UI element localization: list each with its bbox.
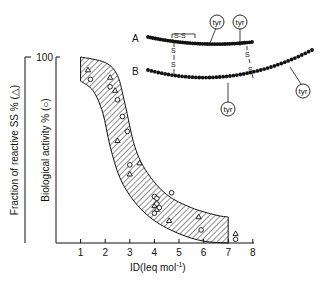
residue-bead (177, 74, 181, 78)
x-title-main: ID(Ieq mol (130, 262, 176, 273)
outer-y-axis (25, 57, 31, 243)
residue-bead (187, 75, 191, 79)
residue-bead (225, 74, 229, 78)
residue-bead (214, 75, 218, 79)
residue-bead (259, 68, 263, 72)
y-outer-title: Fraction of reactive SS % (△) (9, 85, 20, 215)
residue-bead (310, 48, 314, 52)
x-tick-label: 4 (152, 247, 158, 258)
circle-marker (152, 211, 157, 216)
residue-bead (286, 59, 290, 63)
residue-bead (191, 75, 195, 79)
circle-marker (199, 228, 204, 233)
chain-a (146, 35, 254, 46)
residue-bead (300, 53, 304, 57)
x-tick-label: 7 (225, 247, 231, 258)
x-tick-label: 5 (176, 247, 182, 258)
circle-marker (108, 84, 113, 89)
residue-bead (303, 51, 307, 55)
residue-bead (170, 73, 174, 77)
chain-b-label: B (132, 66, 139, 77)
residue-bead (232, 74, 236, 78)
residue-bead (194, 75, 198, 79)
circle-marker (115, 97, 120, 102)
chart-canvas: 100 12345678 Fraction of reactive SS % (… (0, 0, 323, 284)
residue-bead (153, 70, 157, 74)
x-tick-label: 1 (78, 247, 84, 258)
residue-bead (163, 72, 167, 76)
x-tick-label: 8 (250, 247, 256, 258)
tyr-label: tyr (236, 18, 245, 27)
residue-bead (242, 72, 246, 76)
residue-bead (283, 60, 287, 64)
residue-bead (218, 75, 222, 79)
residue-bead (211, 75, 215, 79)
x-tick-label: 2 (102, 247, 108, 258)
tyr-label: tyr (299, 87, 308, 96)
triangle-marker (233, 231, 238, 236)
residue-bead (167, 73, 171, 77)
residue-bead (197, 76, 201, 80)
residue-bead (184, 75, 188, 79)
tyr-tag-a1: tyr (210, 15, 224, 43)
residue-bead (150, 69, 154, 73)
residue-bead (201, 76, 205, 80)
residue-bead (160, 71, 164, 75)
x-title: ID(Ieq mol-1) (130, 261, 186, 273)
residue-bead (156, 71, 160, 75)
residue-bead (235, 73, 239, 77)
circle-marker (128, 163, 133, 168)
residue-bead (208, 76, 212, 80)
residue-bead (255, 69, 259, 73)
residue-bead (296, 55, 300, 59)
intra-disulfide: S-S (172, 32, 195, 39)
inset-diagram: A B S-S S S S S tyr (132, 15, 314, 116)
residue-bead (293, 56, 297, 60)
residue-bead (146, 68, 150, 72)
y-inner-title: Biological activity % (○) (40, 98, 51, 201)
residue-bead (228, 74, 232, 78)
circle-marker (157, 205, 162, 210)
circle-marker (125, 129, 130, 134)
circle-marker (120, 114, 125, 119)
circle-marker (88, 77, 93, 82)
residue-bead (290, 58, 294, 62)
residue-bead (279, 62, 283, 66)
chain-a-label: A (132, 33, 139, 44)
s-label: S (248, 66, 253, 73)
tyr-tag-b2: tyr (290, 67, 310, 98)
residue-bead (221, 75, 225, 79)
residue-bead (276, 63, 280, 67)
s-label: S (245, 51, 250, 58)
x-title-end: ) (182, 262, 185, 273)
s-label: S (171, 47, 176, 54)
residue-bead (180, 74, 184, 78)
circle-marker (169, 190, 174, 195)
tyr-tag-b1: tyr (221, 83, 235, 116)
residue-bead (238, 73, 242, 77)
tyr-label: tyr (213, 18, 222, 27)
y-tick-100: 100 (36, 52, 53, 63)
residue-bead (266, 66, 270, 70)
residue-bead (262, 67, 266, 71)
intra-ss-label: S-S (174, 32, 186, 39)
x-tick-label: 3 (127, 247, 133, 258)
inter-disulfide-1: S S (171, 41, 176, 75)
residue-bead (269, 65, 273, 69)
x-tick-label: 6 (201, 247, 207, 258)
tyr-label: tyr (224, 105, 233, 114)
circle-marker (155, 196, 160, 201)
s-label: S (171, 61, 176, 68)
residue-bead (307, 50, 311, 54)
circle-marker (233, 237, 238, 242)
residue-bead (250, 40, 254, 44)
residue-bead (273, 64, 277, 68)
residue-bead (204, 76, 208, 80)
